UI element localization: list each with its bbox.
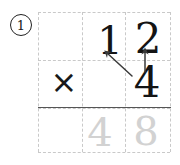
multiplier-digit: 4 [131, 62, 163, 104]
problem-number-badge: 1 [10, 14, 32, 36]
multiplicand-ones-digit: 2 [133, 18, 163, 60]
answer-ones-digit: 8 [130, 111, 162, 151]
multiplication-operator: × [48, 66, 80, 98]
worksheet-problem: 1 1 2 × 4 4 8 [0, 0, 180, 165]
problem-number-label: 1 [17, 19, 25, 32]
grid-line-vertical-1 [82, 12, 83, 152]
grid-line-horizontal-top [38, 12, 170, 13]
grid-line-vertical-right [170, 12, 171, 152]
grid-line-vertical-left [38, 12, 39, 152]
grid-line-vertical-2 [125, 12, 126, 152]
answer-tens-digit: 4 [84, 112, 116, 152]
multiplicand-tens-digit: 1 [96, 20, 124, 60]
